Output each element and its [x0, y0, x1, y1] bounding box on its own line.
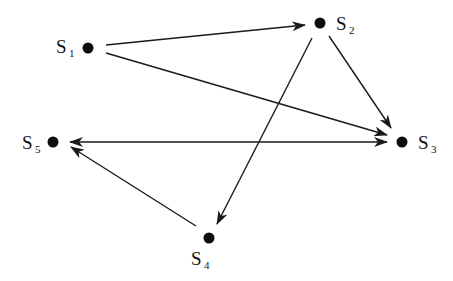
node-s5: S5 — [22, 132, 59, 155]
node-label: S — [418, 132, 429, 153]
edge-s1-s2-arrow — [106, 25, 305, 45]
node-label-subscript: 1 — [69, 47, 75, 59]
node-label: S — [336, 13, 347, 34]
node-dot-icon — [397, 137, 408, 148]
edge-s4-s5-arrow — [71, 147, 196, 226]
node-label: S — [22, 132, 33, 153]
edge-s2-s3-arrow — [329, 36, 391, 128]
node-dot-icon — [315, 18, 326, 29]
node-s1: S1 — [56, 36, 94, 59]
node-label-subscript: 4 — [204, 259, 210, 271]
edge-s2-s4-arrow — [217, 38, 312, 224]
node-dot-icon — [83, 43, 94, 54]
node-label: S — [56, 36, 67, 57]
node-label-subscript: 3 — [431, 143, 437, 155]
node-dot-icon — [48, 137, 59, 148]
node-dot-icon — [204, 233, 215, 244]
node-label-subscript: 2 — [349, 24, 355, 36]
edges-group — [70, 25, 391, 226]
directed-graph-diagram: S1S2S3S4S5 — [0, 0, 453, 281]
node-s4: S4 — [191, 233, 215, 272]
node-s2: S2 — [315, 13, 355, 36]
edge-s1-s3-arrow — [106, 53, 387, 135]
node-label-subscript: 5 — [35, 143, 41, 155]
node-label: S — [191, 248, 202, 269]
node-s3: S3 — [397, 132, 438, 155]
